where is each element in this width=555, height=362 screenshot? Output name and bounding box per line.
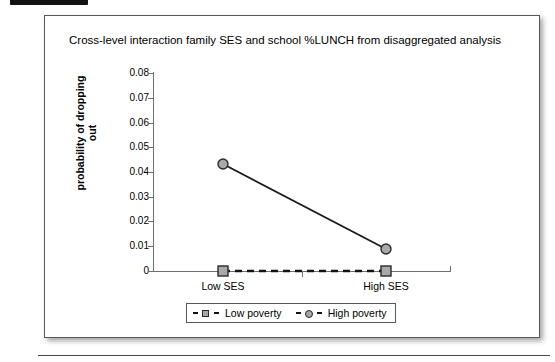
datapoint-low-poverty-high-ses	[381, 266, 391, 276]
page-horizontal-rule	[38, 355, 550, 356]
plot-area: probability of dropping out 0.08 0.07 0.…	[45, 16, 541, 339]
legend-marker-circle-icon	[296, 307, 322, 319]
page-top-crop-artifacts: ••• ••	[0, 0, 555, 13]
chart-legend: Low poverty High poverty	[186, 303, 396, 323]
datapoint-low-poverty-low-ses	[218, 266, 228, 276]
cropped-faint-text: ••• ••	[152, 0, 222, 3]
series-high-poverty-line	[223, 164, 386, 249]
legend-marker-square-icon	[193, 307, 219, 319]
figure-container: Cross-level interaction family SES and s…	[44, 15, 540, 338]
cropped-black-bar	[10, 0, 88, 5]
datapoint-high-poverty-high-ses	[381, 244, 391, 254]
legend-label-low-poverty: Low poverty	[223, 307, 282, 319]
legend-item-low-poverty[interactable]: Low poverty	[193, 307, 282, 319]
data-series-layer	[45, 16, 541, 339]
datapoint-high-poverty-low-ses	[218, 159, 228, 169]
legend-label-high-poverty: High poverty	[326, 307, 387, 319]
legend-item-high-poverty[interactable]: High poverty	[296, 307, 387, 319]
